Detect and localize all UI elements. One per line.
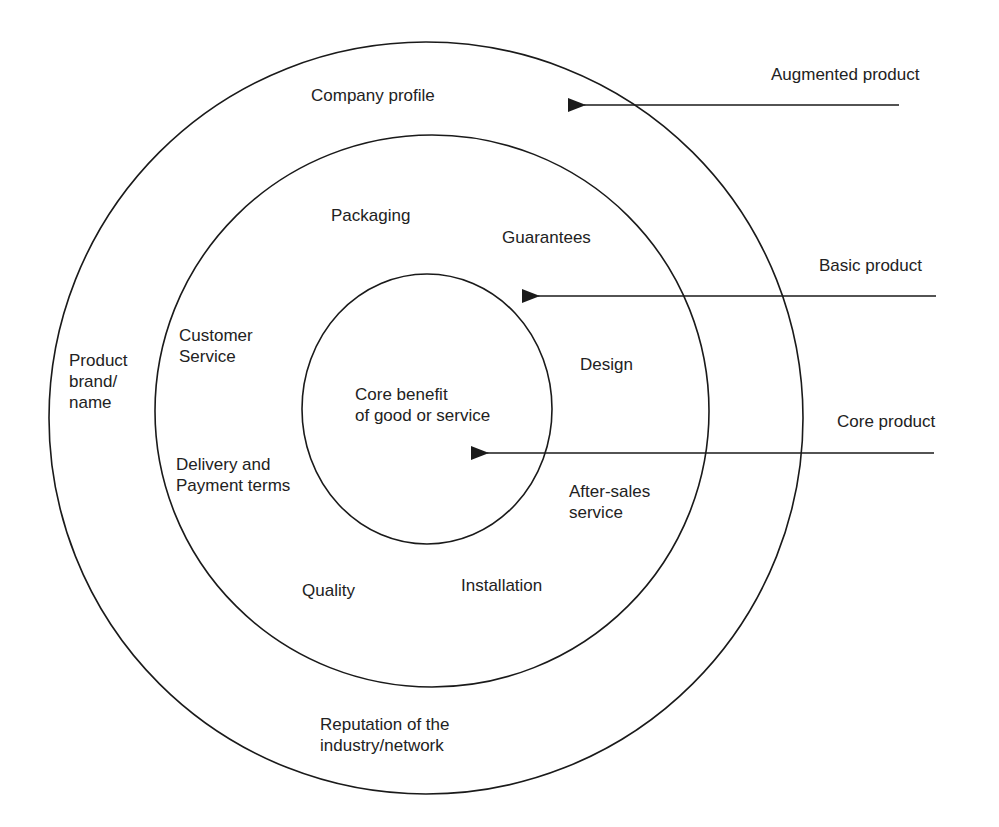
quality-label: Quality: [302, 580, 355, 601]
design-label: Design: [580, 354, 633, 375]
core-benefit-label: Core benefit of good or service: [355, 384, 490, 426]
customer-service-label: Customer Service: [179, 325, 253, 367]
core-product-label: Core product: [837, 411, 935, 432]
augmented-product-label: Augmented product: [771, 64, 919, 85]
packaging-label: Packaging: [331, 205, 410, 226]
product-brand-label: Product brand/ name: [69, 350, 128, 413]
basic-product-label: Basic product: [819, 255, 922, 276]
reputation-label: Reputation of the industry/network: [320, 714, 449, 756]
installation-label: Installation: [461, 575, 542, 596]
guarantees-label: Guarantees: [502, 227, 591, 248]
delivery-payment-label: Delivery and Payment terms: [176, 454, 290, 496]
company-profile-label: Company profile: [311, 85, 435, 106]
after-sales-label: After-sales service: [569, 481, 650, 523]
